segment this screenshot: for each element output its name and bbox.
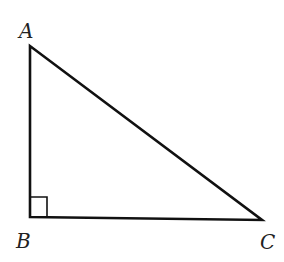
right-angle-marker (30, 197, 47, 217)
triangle-abc (30, 46, 262, 220)
vertex-label-c: C (260, 230, 275, 254)
triangle-diagram: A B C (0, 0, 284, 262)
vertex-label-b: B (15, 229, 31, 253)
vertex-label-a: A (17, 19, 33, 43)
